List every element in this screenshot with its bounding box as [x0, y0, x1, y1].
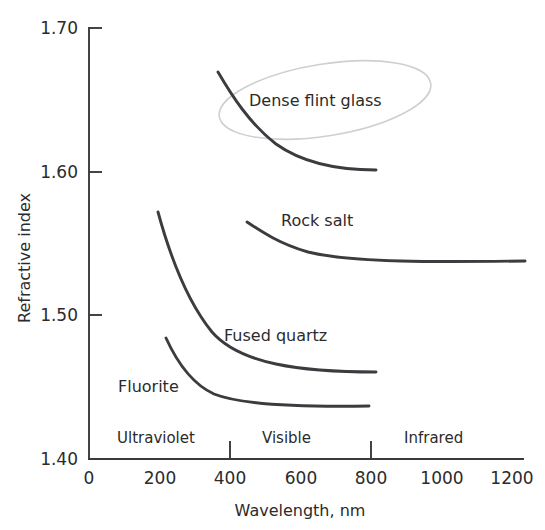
x-tick-label-200: 200 [144, 468, 176, 488]
series-label-rock-salt: Rock salt [281, 211, 353, 230]
y-tick-label-1-50: 1.50 [40, 305, 78, 325]
region-label-infrared: Infrared [404, 429, 463, 447]
series-label-fluorite: Fluorite [118, 377, 179, 396]
region-label-ultraviolet: Ultraviolet [117, 429, 195, 447]
x-tick-label-1000: 1000 [420, 468, 463, 488]
x-tick-label-800: 800 [355, 468, 387, 488]
x-tick-label-400: 400 [214, 468, 246, 488]
region-label-visible: Visible [262, 429, 311, 447]
series-label-fused-quartz: Fused quartz [224, 326, 327, 345]
x-axis-title: Wavelength, nm [235, 501, 366, 520]
y-axis-title: Refractive index [15, 193, 34, 323]
series-label-dense-flint-glass: Dense flint glass [249, 91, 382, 110]
refractive-index-dispersion-chart: Refractive index 1.70 1.60 1.50 1.40 0 2… [0, 0, 545, 530]
chart-svg: Refractive index 1.70 1.60 1.50 1.40 0 2… [0, 0, 545, 530]
curve-dense-flint-glass [218, 72, 376, 170]
x-tick-label-0: 0 [84, 468, 95, 488]
y-tick-label-1-60: 1.60 [40, 162, 78, 182]
x-tick-label-600: 600 [285, 468, 317, 488]
y-tick-label-1-70: 1.70 [40, 18, 78, 38]
y-tick-label-1-40: 1.40 [40, 449, 78, 469]
x-tick-label-1200: 1200 [490, 468, 533, 488]
